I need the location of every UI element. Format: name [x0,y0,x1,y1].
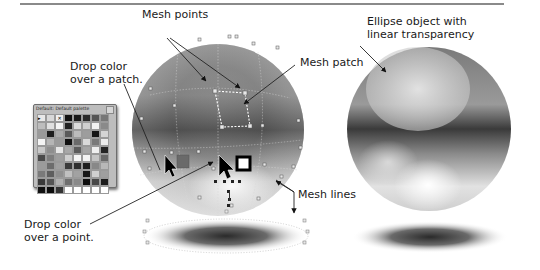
annotation-drop-patch: Drop color over a patch. [70,60,143,86]
palette-swatch[interactable] [100,130,109,138]
palette-swatch[interactable] [46,114,55,122]
no-color-icon[interactable]: ✕ [55,114,64,122]
palette-swatch[interactable] [64,162,73,170]
palette-swatch-grid: ▸✕ [37,114,109,194]
palette-swatch[interactable] [82,122,91,130]
dropped-color-swatch-point [237,157,250,170]
mesh-shadow-ellipse[interactable] [143,210,309,253]
palette-swatch[interactable] [91,154,100,162]
palette-swatch[interactable] [64,170,73,178]
mesh-sphere[interactable] [132,35,304,216]
palette-swatch[interactable] [55,146,64,154]
palette-swatch[interactable] [91,146,100,154]
palette-swatch[interactable] [73,122,82,130]
palette-swatch[interactable] [37,138,46,146]
pointer-icon[interactable]: ▸ [37,114,46,122]
palette-swatch[interactable] [37,178,46,186]
palette-swatch[interactable] [64,114,73,122]
palette-swatch[interactable] [73,114,82,122]
palette-swatch[interactable] [64,138,73,146]
palette-swatch[interactable] [46,178,55,186]
annotation-drop-point: Drop color over a point. [24,218,94,244]
palette-swatch[interactable] [82,162,91,170]
color-palette-window[interactable]: Default: Default palette ▸✕ [33,104,117,188]
palette-swatch[interactable] [55,170,64,178]
palette-swatch[interactable] [46,138,55,146]
palette-swatch[interactable] [91,114,100,122]
palette-swatch[interactable] [46,162,55,170]
palette-swatch[interactable] [91,170,100,178]
annotation-mesh-lines: Mesh lines [298,188,356,201]
dropped-color-swatch-patch [177,155,189,168]
palette-swatch[interactable] [55,138,64,146]
palette-swatch[interactable] [55,130,64,138]
palette-swatch[interactable] [82,154,91,162]
palette-swatch[interactable] [100,114,109,122]
palette-swatch[interactable] [100,122,109,130]
palette-swatch[interactable] [100,186,109,194]
palette-swatch[interactable] [64,154,73,162]
palette-swatch[interactable] [37,170,46,178]
palette-swatch[interactable] [46,154,55,162]
palette-swatch[interactable] [64,130,73,138]
palette-swatch[interactable] [100,170,109,178]
palette-swatch[interactable] [82,170,91,178]
palette-swatch[interactable] [91,122,100,130]
palette-swatch[interactable] [37,146,46,154]
palette-swatch[interactable] [37,162,46,170]
palette-title: Default: Default palette [36,106,89,111]
palette-swatch[interactable] [100,154,109,162]
palette-swatch[interactable] [64,122,73,130]
annotation-ellipse-object: Ellipse object with linear transparency [367,15,474,41]
palette-swatch[interactable] [100,178,109,186]
close-icon[interactable] [106,106,114,114]
palette-swatch[interactable] [91,138,100,146]
palette-swatch[interactable] [55,178,64,186]
palette-swatch[interactable] [46,146,55,154]
palette-swatch[interactable] [73,154,82,162]
palette-swatch[interactable] [55,162,64,170]
palette-swatch[interactable] [82,114,91,122]
palette-swatch[interactable] [64,178,73,186]
palette-swatch[interactable] [73,186,82,194]
rendered-sphere[interactable] [347,47,511,211]
palette-swatch[interactable] [100,162,109,170]
palette-swatch[interactable] [82,186,91,194]
rendered-shadow-ellipse [352,221,508,253]
palette-swatch[interactable] [91,130,100,138]
palette-swatch[interactable] [64,186,73,194]
palette-swatch[interactable] [55,154,64,162]
palette-swatch[interactable] [37,130,46,138]
palette-swatch[interactable] [37,154,46,162]
annotation-mesh-points: Mesh points [142,8,208,21]
palette-swatch[interactable] [82,130,91,138]
palette-swatch[interactable] [46,122,55,130]
palette-swatch[interactable] [100,146,109,154]
palette-swatch[interactable] [64,146,73,154]
palette-swatch[interactable] [55,122,64,130]
palette-swatch[interactable] [46,170,55,178]
palette-swatch[interactable] [46,186,55,194]
palette-swatch[interactable] [91,186,100,194]
palette-swatch[interactable] [55,186,64,194]
transparency-highlight [366,47,470,131]
palette-swatch[interactable] [37,122,46,130]
palette-swatch[interactable] [73,162,82,170]
palette-swatch[interactable] [73,130,82,138]
palette-swatch[interactable] [46,130,55,138]
palette-swatch[interactable] [91,178,100,186]
palette-swatch[interactable] [73,170,82,178]
annotation-mesh-patch: Mesh patch [300,56,364,69]
palette-swatch[interactable] [73,146,82,154]
palette-swatch[interactable] [100,138,109,146]
palette-swatch[interactable] [82,146,91,154]
palette-swatch[interactable] [37,186,46,194]
palette-swatch[interactable] [73,178,82,186]
palette-swatch[interactable] [82,178,91,186]
palette-swatch[interactable] [82,138,91,146]
palette-swatch[interactable] [91,162,100,170]
palette-swatch[interactable] [73,138,82,146]
